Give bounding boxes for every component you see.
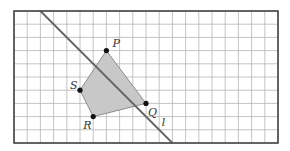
point-q-dot	[143, 101, 148, 106]
line-l-label: l	[162, 116, 166, 129]
reflection-diagram: PQRS l	[0, 0, 290, 151]
grid	[14, 11, 278, 143]
point-s-dot	[77, 88, 82, 93]
point-q-label: Q	[148, 106, 157, 119]
point-p-label: P	[111, 37, 120, 50]
point-p-dot	[104, 48, 109, 53]
point-r-label: R	[82, 119, 91, 132]
point-s-label: S	[70, 79, 78, 92]
